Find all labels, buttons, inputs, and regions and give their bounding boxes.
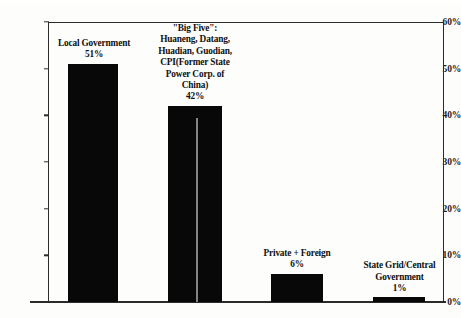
bar-label-line: Power Corp. of bbox=[143, 69, 247, 80]
bar-label-line: Local Government bbox=[48, 38, 140, 49]
bar-label-line: Huadian, Guodian, bbox=[143, 46, 247, 57]
bar-label-line: Government bbox=[348, 272, 451, 283]
bar-label-line: "Big Five": bbox=[143, 23, 247, 34]
bar-value-label: 1% bbox=[348, 283, 451, 294]
scan-crease-artifact bbox=[196, 118, 198, 302]
bar-private-foreign bbox=[271, 274, 323, 302]
bar-label-local-government: Local Government51% bbox=[48, 38, 140, 61]
bar-label-line: Huaneng, Datang, bbox=[143, 34, 247, 45]
bar-value-label: 51% bbox=[48, 49, 140, 60]
bar-chart: 0%10%20%30%40%50%60% Local Government51%… bbox=[0, 0, 461, 318]
bar-label-state-grid-central-government: State Grid/CentralGovernment1% bbox=[348, 260, 451, 294]
bar-label-line: State Grid/Central bbox=[348, 260, 451, 271]
bar-value-label: 6% bbox=[248, 259, 346, 270]
bar-label-big-five: "Big Five":Huaneng, Datang,Huadian, Guod… bbox=[143, 23, 247, 103]
bar-big-five bbox=[168, 106, 222, 302]
bar-label-line: Private + Foreign bbox=[248, 248, 346, 259]
bar-local-government bbox=[68, 64, 118, 302]
bar-state-grid-central-government bbox=[373, 297, 425, 302]
bar-label-line: CPI(Former State bbox=[143, 57, 247, 68]
scan-paper-edge bbox=[0, 0, 461, 4]
bar-label-line: China) bbox=[143, 80, 247, 91]
bar-label-private-foreign: Private + Foreign6% bbox=[248, 248, 346, 271]
bar-value-label: 42% bbox=[143, 91, 247, 102]
